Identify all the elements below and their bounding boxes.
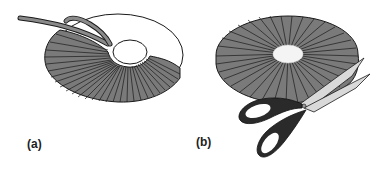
ring-center-hole xyxy=(273,45,303,63)
panel-a-label: (a) xyxy=(27,137,42,151)
panel-b-label: (b) xyxy=(196,135,211,149)
fully-wrapped-ring xyxy=(216,16,359,103)
scissors-pivot xyxy=(302,104,306,108)
panel-b-illustration xyxy=(0,0,388,170)
